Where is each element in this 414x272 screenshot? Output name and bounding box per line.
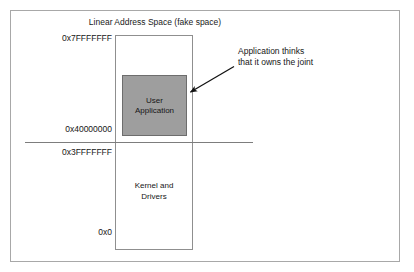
diagram-canvas: Linear Address Space (fake space) User A…	[0, 0, 414, 272]
diagram-title: Linear Address Space (fake space)	[40, 17, 270, 28]
kernel-label-line1: Kernel and	[115, 181, 193, 192]
user-kernel-boundary-line	[25, 142, 253, 143]
kernel-label-line2: Drivers	[115, 192, 193, 203]
callout-line1: Application thinks	[238, 46, 313, 57]
user-application-label-line2: Application	[135, 106, 174, 116]
user-application-block: User Application	[122, 75, 187, 136]
address-label-0x3FFFFFFF: 0x3FFFFFFF	[62, 147, 112, 157]
user-application-label-line1: User	[146, 96, 163, 106]
address-label-0x0: 0x0	[98, 227, 112, 237]
address-label-0x7FFFFFFF: 0x7FFFFFFF	[62, 33, 112, 43]
callout-arrow-icon	[182, 60, 242, 102]
callout-line2: that it owns the joint	[238, 57, 313, 68]
address-label-0x40000000: 0x40000000	[65, 124, 112, 134]
kernel-and-drivers-label: Kernel and Drivers	[115, 181, 193, 202]
figure-frame	[10, 10, 400, 262]
callout-annotation: Application thinks that it owns the join…	[238, 46, 313, 68]
